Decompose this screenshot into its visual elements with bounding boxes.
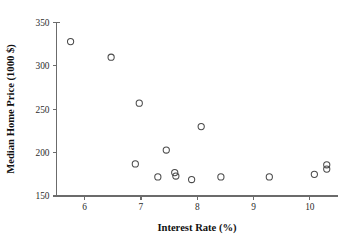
data-point-marker xyxy=(324,166,330,172)
data-point-marker xyxy=(189,176,195,182)
x-axis-ticks: 678910 xyxy=(82,196,315,212)
x-axis-tick-label: 7 xyxy=(139,202,144,212)
data-point-marker xyxy=(266,174,272,180)
y-axis-line xyxy=(57,23,61,197)
data-point-markers xyxy=(67,38,329,182)
x-axis-tick-label: 8 xyxy=(195,202,200,212)
data-point-marker xyxy=(218,174,224,180)
data-point-marker xyxy=(155,174,161,180)
x-axis-title: Interest Rate (%) xyxy=(157,222,237,234)
y-axis-tick-label: 300 xyxy=(35,61,49,71)
data-point-marker xyxy=(132,161,138,167)
y-axis-title: Median Home Price (1000 $) xyxy=(5,44,17,174)
plot-canvas: 150200250300350 678910 Interest Rate (%)… xyxy=(0,0,351,240)
y-axis-tick-label: 250 xyxy=(35,105,49,115)
data-point-marker xyxy=(136,100,142,106)
scatter-plot-figure: 150200250300350 678910 Interest Rate (%)… xyxy=(0,0,351,240)
x-axis-tick-label: 6 xyxy=(82,202,87,212)
data-point-marker xyxy=(198,124,204,130)
data-point-marker xyxy=(163,147,169,153)
x-axis-tick-label: 10 xyxy=(305,202,315,212)
data-point-marker xyxy=(108,54,114,60)
axes-frame xyxy=(57,23,339,197)
y-axis-ticks: 150200250300350 xyxy=(35,18,56,202)
y-axis-tick-label: 200 xyxy=(35,148,49,158)
data-point-marker xyxy=(311,171,317,177)
data-point-marker xyxy=(67,38,73,44)
x-axis-tick-label: 9 xyxy=(251,202,256,212)
y-axis-tick-label: 150 xyxy=(35,191,49,201)
y-axis-tick-label: 350 xyxy=(35,18,49,28)
